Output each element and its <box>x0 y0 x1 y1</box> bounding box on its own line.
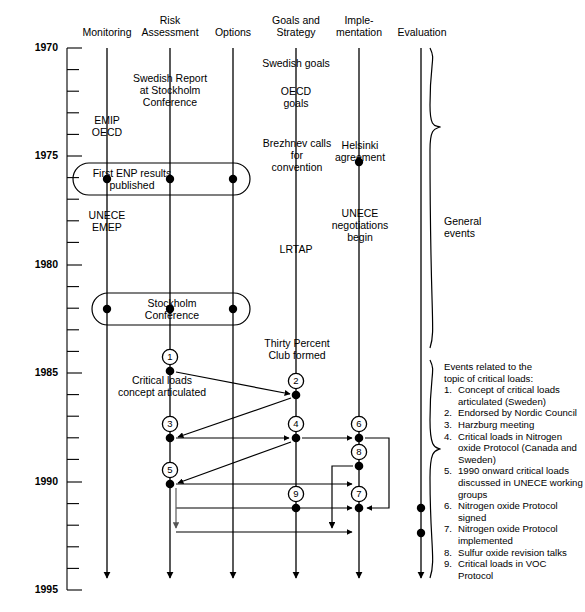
event-label-emip-oecd: EMIP OECD <box>76 114 138 138</box>
dot-stockholm-monitoring <box>103 305 111 313</box>
legend-item-text: Critical loads in VOC Protocol <box>458 558 547 581</box>
year-label-1985: 1985 <box>18 366 58 378</box>
legend-item: 9.Critical loads in VOC Protocol <box>444 558 584 581</box>
legend-item: 2.Endorsed by Nordic Council <box>444 407 584 419</box>
event-label-swedish-goals: Swedish goals <box>252 57 340 69</box>
legend-item-text: Endorsed by Nordic Council <box>458 407 577 418</box>
node-label-3: 3 <box>163 417 177 431</box>
year-label-1995: 1995 <box>18 583 58 595</box>
node-dot-4 <box>292 434 301 443</box>
arrow-6-to-7 <box>365 438 389 508</box>
event-label-thirty-percent: Thirty Percent Club formed <box>245 337 349 361</box>
legend-item: 8.Sulfur oxide revision talks <box>444 547 584 559</box>
legend-item: 6.Nitrogen oxide Protocol signed <box>444 500 584 523</box>
legend-item-text: Sulfur oxide revision talks <box>458 547 567 558</box>
legend-item-text: Concept of critical loads articulated (S… <box>458 384 560 407</box>
legend-item-text: Nitrogen oxide Protocol signed <box>458 500 558 523</box>
node-label-8: 8 <box>352 445 366 459</box>
right-braces <box>430 48 440 578</box>
legend-item-number: 5. <box>444 465 452 477</box>
node-dot-6 <box>355 434 364 443</box>
column-header-evaluation: Evaluation <box>384 27 460 39</box>
event-label-helsinki: Helsinki agreement <box>324 139 396 163</box>
year-label-1975: 1975 <box>18 149 58 161</box>
legend-item-number: 8. <box>444 547 452 559</box>
legend-item-number: 1. <box>444 384 452 396</box>
legend-item-number: 2. <box>444 407 452 419</box>
dot-first-enp-options <box>229 175 237 183</box>
year-label-1970: 1970 <box>18 41 58 53</box>
event-label-critical-loads: Critical loads concept articulated <box>98 374 226 398</box>
legend-item: 1.Concept of critical loads articulated … <box>444 384 584 407</box>
event-label-oecd-goals: OECD goals <box>266 85 326 109</box>
node-dot-2 <box>292 391 301 400</box>
legend-title: Events related to the topic of critical … <box>444 361 584 384</box>
arrow-4-to-5 <box>178 442 291 483</box>
node-dot-7 <box>355 504 364 513</box>
event-label-unece-negot: UNECE negotiations begin <box>322 207 398 243</box>
year-label-1990: 1990 <box>18 475 58 487</box>
legend-item-number: 4. <box>444 431 452 443</box>
arrow-8-branch <box>332 466 353 528</box>
node-label-5: 5 <box>163 463 177 477</box>
node-label-7: 7 <box>352 487 366 501</box>
dot-evaluation-upper <box>417 504 425 512</box>
event-label-swedish-report: Swedish Report at Stockholm Conference <box>118 72 222 108</box>
legend-list: 1.Concept of critical loads articulated … <box>444 384 584 581</box>
arrow-2-to-3 <box>178 398 291 437</box>
legend-item: 3.Harzburg meeting <box>444 419 584 431</box>
node-dot-5 <box>166 480 175 489</box>
legend-item-text: Nitrogen oxide Protocol implemented <box>458 523 558 546</box>
legend-item-number: 7. <box>444 523 452 535</box>
legend-item: 4.Critical loads in Nitrogen oxide Proto… <box>444 431 584 466</box>
legend-item-text: 1990 onward critical loads discussed in … <box>458 465 583 499</box>
event-label-first-enp: First ENP results published <box>80 167 184 191</box>
legend-item-text: Critical loads in Nitrogen oxide Protoco… <box>458 431 577 465</box>
node-dot-8 <box>355 462 364 471</box>
event-label-unece-emep: UNECE EMEP <box>76 209 138 233</box>
node-dot-3 <box>166 434 175 443</box>
brace-general-events <box>430 48 440 348</box>
event-label-stockholm: Stockholm Conference <box>131 297 213 321</box>
dot-evaluation-lower <box>417 529 425 537</box>
legend-item-text: Harzburg meeting <box>458 419 534 430</box>
node-label-1: 1 <box>163 350 177 364</box>
node-label-9: 9 <box>289 487 303 501</box>
event-label-lrtap: LRTAP <box>266 243 326 255</box>
node-label-2: 2 <box>289 374 303 388</box>
year-label-1980: 1980 <box>18 258 58 270</box>
dot-stockholm-options <box>229 305 237 313</box>
legend-item: 5.1990 onward critical loads discussed i… <box>444 465 584 500</box>
node-label-4: 4 <box>289 417 303 431</box>
brace-critical-loads <box>430 360 440 578</box>
legend-item-number: 3. <box>444 419 452 431</box>
brace-label-general-events: General events <box>444 215 524 239</box>
legend: Events related to the topic of critical … <box>444 361 584 581</box>
node-label-6: 6 <box>352 417 366 431</box>
legend-item-number: 6. <box>444 500 452 512</box>
legend-item: 7.Nitrogen oxide Protocol implemented <box>444 523 584 546</box>
legend-item-number: 9. <box>444 558 452 570</box>
